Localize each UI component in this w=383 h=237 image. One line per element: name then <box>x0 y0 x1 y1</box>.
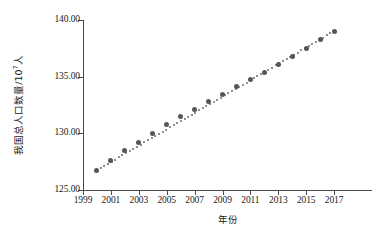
trendline-dot <box>191 114 193 116</box>
y-axis-title-suffix: 人 <box>13 55 24 65</box>
trendline-dot <box>136 146 138 148</box>
trendline-dot <box>235 88 237 90</box>
data-point <box>150 131 155 136</box>
trendline-dot <box>286 58 288 60</box>
x-axis-title: 年份 <box>83 212 372 226</box>
trendline-dot <box>304 47 306 49</box>
trendline-dot <box>238 86 240 88</box>
trendline-dot <box>231 90 233 92</box>
data-point <box>164 122 169 127</box>
trendline-dot <box>143 141 145 143</box>
y-axis-line <box>83 20 84 191</box>
trendline-dot <box>216 99 218 101</box>
trendline-dot <box>198 109 200 111</box>
trendline-dot <box>253 77 255 79</box>
trendline-dot <box>202 107 204 109</box>
data-point <box>94 168 99 173</box>
trendline-dot <box>275 64 277 66</box>
data-point <box>332 29 337 34</box>
data-point <box>122 148 127 153</box>
trendline-dot <box>209 103 211 105</box>
trendline-dot <box>107 163 109 165</box>
trendline-dot <box>158 133 160 135</box>
trendline-dot <box>322 37 324 39</box>
trendline-dot <box>96 169 98 171</box>
trendline-dot <box>333 30 335 32</box>
x-axis-tick-label: 2017 <box>314 196 354 206</box>
trendline-dot <box>187 116 189 118</box>
trendline-dot <box>176 122 178 124</box>
trendline-dot <box>242 84 244 86</box>
trendline-dot <box>267 69 269 71</box>
trendline-dot <box>293 54 295 56</box>
trendline-dot <box>319 39 321 41</box>
trendline-dot <box>227 92 229 94</box>
trendline-dot <box>180 120 182 122</box>
trendline-dot <box>205 105 207 107</box>
y-axis-tick-label: 130.00 <box>20 128 80 138</box>
trendline-dot <box>246 82 248 84</box>
trendline-dot <box>224 94 226 96</box>
data-point <box>318 37 323 42</box>
y-axis-tick-label: 140.00 <box>20 15 80 25</box>
trendline-dot <box>114 159 116 161</box>
population-scatter-chart: 125.00130.00135.00140.00 199920012003200… <box>0 0 383 237</box>
trendline-dot <box>169 126 171 128</box>
y-axis-tick-label: 125.00 <box>20 185 80 195</box>
trendline-dot <box>256 75 258 77</box>
trendline-dot <box>326 34 328 36</box>
trendline-dot <box>173 124 175 126</box>
trendline-dot <box>118 156 120 158</box>
trendline-dot <box>264 71 266 73</box>
data-point <box>248 77 253 82</box>
trendline-dot <box>220 97 222 99</box>
data-point <box>290 54 295 59</box>
trendline-dot <box>103 165 105 167</box>
trendline-dot <box>100 167 102 169</box>
data-point <box>136 140 141 145</box>
trendline-dot <box>151 137 153 139</box>
y-axis-tick-label: 135.00 <box>20 72 80 82</box>
trendline-dot <box>311 43 313 45</box>
trendline-dot <box>111 161 113 163</box>
trendline-dot <box>132 148 134 150</box>
trendline-dot <box>260 73 262 75</box>
trendline-dot <box>154 135 156 137</box>
trendline-dot <box>213 101 215 103</box>
data-point <box>108 158 113 163</box>
trendline-dot <box>165 129 167 131</box>
trendline-dot <box>194 112 196 114</box>
x-axis-line <box>83 190 372 191</box>
trendline-dot <box>282 60 284 62</box>
trendline-dot <box>147 139 149 141</box>
data-point <box>262 70 267 75</box>
data-point <box>192 107 197 112</box>
y-axis-title: 我国总人口数量/107人 <box>11 45 25 165</box>
trendline-dot <box>315 41 317 43</box>
trendline-dot <box>289 56 291 58</box>
trendline-dot <box>162 131 164 133</box>
trendline-dot <box>297 52 299 54</box>
trendline-dot <box>300 49 302 51</box>
data-point <box>276 62 281 67</box>
y-axis-title-exponent: 7 <box>12 65 20 69</box>
data-point <box>304 46 309 51</box>
data-point <box>220 92 225 97</box>
trendline-dot <box>184 118 186 120</box>
trendline-dot <box>308 45 310 47</box>
data-point <box>178 114 183 119</box>
data-point <box>234 84 239 89</box>
y-axis-title-base: 我国总人口数量/10 <box>13 69 24 154</box>
trendline-dot <box>271 67 273 69</box>
trendline-dot <box>125 152 127 154</box>
trendline-dot <box>249 79 251 81</box>
trendline-dot <box>278 62 280 64</box>
trendline-dot <box>140 144 142 146</box>
trendline-dot <box>329 32 331 34</box>
trendline-dot <box>129 150 131 152</box>
data-point <box>206 99 211 104</box>
trendline-dot <box>121 154 123 156</box>
